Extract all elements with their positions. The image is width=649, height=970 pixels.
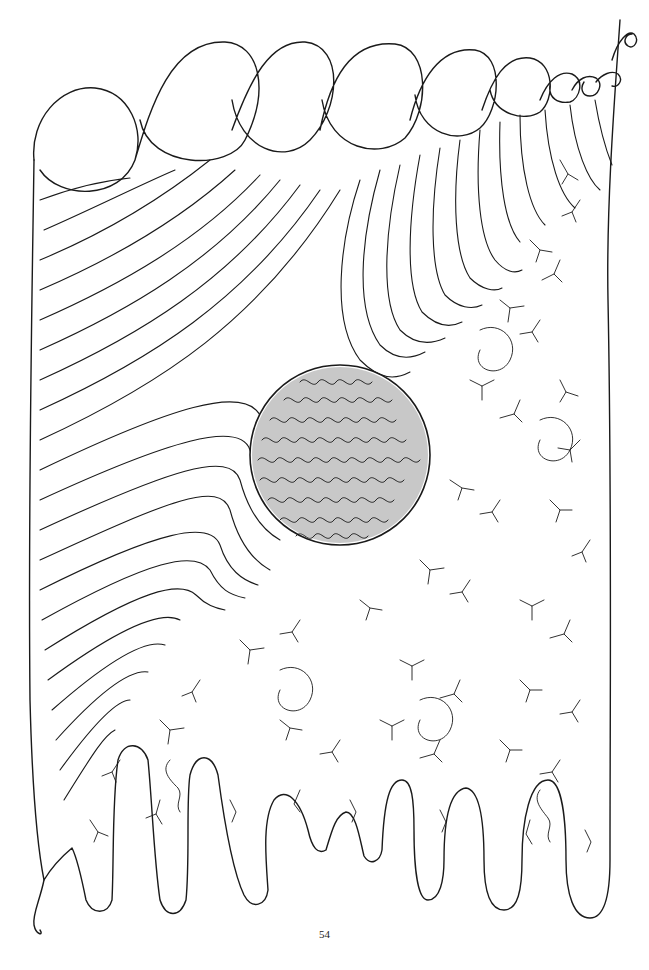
nucleus [250,365,430,545]
tail-curl [34,880,44,934]
line-art-illustration [0,0,649,970]
page-number: 54 [0,928,649,940]
top-loops [34,33,637,191]
